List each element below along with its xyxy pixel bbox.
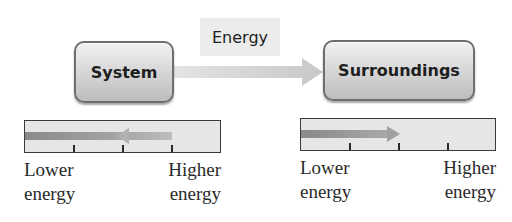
scale-tick — [447, 143, 449, 150]
energy-decrease-arrow-icon — [25, 128, 175, 144]
scale-tick — [122, 145, 124, 152]
energy-flow-label: Energy — [200, 18, 280, 56]
system-box-label: System — [91, 63, 158, 82]
scale-tick — [73, 145, 75, 152]
surroundings-box: Surroundings — [323, 40, 475, 101]
energy-flow-arrow-icon — [170, 56, 326, 88]
scale-tick — [398, 143, 400, 150]
system-energy-scale — [24, 120, 221, 153]
system-low-energy-label: Lower energy — [24, 158, 75, 206]
surroundings-box-label: Surroundings — [338, 61, 460, 80]
energy-flow-label-text: Energy — [212, 28, 268, 47]
surroundings-energy-scale — [300, 118, 496, 151]
surroundings-high-energy-label: Higher energy — [414, 156, 496, 204]
energy-increase-arrow-icon — [301, 126, 403, 142]
scale-tick — [349, 143, 351, 150]
system-box: System — [74, 41, 174, 103]
scale-tick — [171, 145, 173, 152]
system-high-energy-label: Higher energy — [140, 158, 221, 206]
surroundings-low-energy-label: Lower energy — [300, 156, 351, 204]
